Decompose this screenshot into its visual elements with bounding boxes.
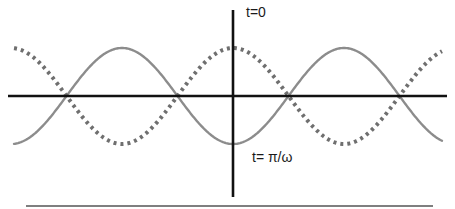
wave-plot <box>0 0 455 209</box>
label-t-pi-over-omega: t= π/ω <box>252 150 292 164</box>
label-t0: t=0 <box>246 5 266 19</box>
standing-wave-diagram: t=0 t= π/ω <box>0 0 455 209</box>
